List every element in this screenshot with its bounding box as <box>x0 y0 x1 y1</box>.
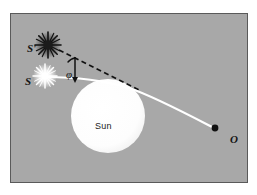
source-true-label: S <box>25 76 31 87</box>
deflection-angle-label: φ <box>66 69 72 80</box>
source-apparent-label: S' <box>27 43 36 54</box>
figure-root: Sun S' S O φ <box>0 0 257 195</box>
observer-dot <box>212 125 219 132</box>
observer-label: O <box>230 134 238 145</box>
star-true-glyph <box>33 64 57 88</box>
diagram-panel: Sun S' S O φ <box>10 13 248 183</box>
sun-label: Sun <box>95 122 112 131</box>
star-apparent-glyph <box>35 32 61 58</box>
diagram-svg <box>11 14 247 182</box>
